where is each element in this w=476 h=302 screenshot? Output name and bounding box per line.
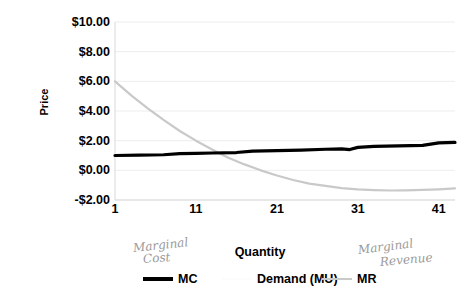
series-line-mc bbox=[115, 142, 455, 155]
x-axis-tick-label: 41 bbox=[416, 203, 462, 216]
handwritten-marginal-cost-line1: Marginal bbox=[132, 235, 189, 255]
plot-area bbox=[115, 22, 455, 200]
chart-legend: MC Demand (MU) MR bbox=[0, 268, 476, 294]
handwritten-marginal-cost-line2: Cost bbox=[143, 249, 189, 266]
legend-item-mr[interactable]: MR bbox=[322, 268, 376, 290]
series-line-mr bbox=[115, 81, 455, 190]
chart-container: Price $10.00$8.00$6.00$4.00$2.00$0.00-$2… bbox=[0, 0, 476, 302]
plot-svg bbox=[115, 22, 455, 200]
x-axis-tick-label: 31 bbox=[335, 203, 381, 216]
y-axis-tick-label: $2.00 bbox=[38, 135, 110, 148]
legend-swatch-demand-icon bbox=[222, 278, 252, 280]
legend-item-demand[interactable]: Demand (MU) bbox=[222, 268, 338, 290]
legend-swatch-mc-icon bbox=[143, 277, 173, 281]
handwritten-marginal-revenue-line2: Revenue bbox=[379, 250, 433, 269]
y-axis-tick-label: $0.00 bbox=[38, 164, 110, 177]
legend-label-mr: MR bbox=[357, 273, 376, 286]
y-axis-tick-labels: $10.00$8.00$6.00$4.00$2.00$0.00-$2.00 bbox=[38, 0, 110, 302]
x-axis-title: Quantity bbox=[190, 245, 330, 259]
y-axis-tick-label: $10.00 bbox=[38, 16, 110, 29]
legend-label-mc: MC bbox=[178, 273, 197, 286]
x-axis-tick-label: 11 bbox=[173, 203, 219, 216]
x-axis-tick-labels: 111213141 bbox=[0, 203, 476, 223]
y-axis-tick-label: $4.00 bbox=[38, 105, 110, 118]
handwritten-marginal-revenue-line1: Marginal bbox=[357, 234, 433, 257]
y-axis-tick-label: $8.00 bbox=[38, 46, 110, 59]
handwritten-annotation-marginal-revenue: Marginal Revenue bbox=[358, 243, 433, 269]
handwritten-annotation-marginal-cost: Marginal Cost bbox=[133, 241, 188, 266]
legend-swatch-mr-icon bbox=[322, 278, 352, 280]
y-axis-tick-label: $6.00 bbox=[38, 75, 110, 88]
x-axis-tick-label: 21 bbox=[254, 203, 300, 216]
x-axis-tick-label: 1 bbox=[92, 203, 138, 216]
legend-item-mc[interactable]: MC bbox=[143, 268, 197, 290]
